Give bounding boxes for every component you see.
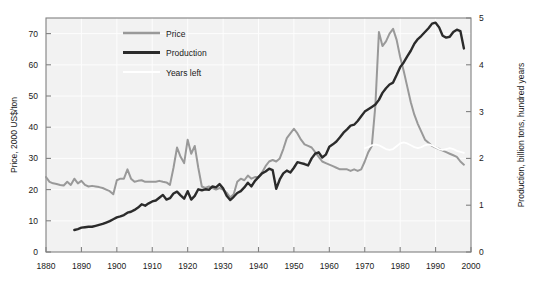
x-tick-label: 1980: [391, 261, 410, 271]
legend-label-price: Price: [166, 29, 186, 39]
x-tick-label: 2000: [462, 261, 481, 271]
x-tick-label: 1890: [72, 261, 91, 271]
x-tick-label: 1970: [355, 261, 374, 271]
y-tick-label-right: 1: [479, 200, 484, 210]
x-tick-label: 1930: [214, 261, 233, 271]
y-axis-left-title: Price, 2000 US$/ton: [9, 97, 19, 173]
y-tick-label-left: 50: [29, 91, 39, 101]
y-axis-right-title: Production, billion tons, hundred years: [516, 63, 526, 208]
y-tick-label-left: 60: [29, 60, 39, 70]
y-tick-label-right: 4: [479, 60, 484, 70]
x-tick-label: 1910: [143, 261, 162, 271]
x-tick-label: 1950: [284, 261, 303, 271]
x-tick-label: 1880: [37, 261, 56, 271]
x-tick-label: 1920: [178, 261, 197, 271]
y-tick-label-left: 70: [29, 29, 39, 39]
y-tick-label-left: 40: [29, 122, 39, 132]
y-tick-label-left: 0: [33, 247, 38, 257]
y-tick-label-right: 0: [479, 247, 484, 257]
x-tick-label: 1900: [107, 261, 126, 271]
legend-label-years-left: Years left: [166, 68, 202, 78]
y-tick-label-left: 10: [29, 216, 39, 226]
x-tick-label: 1960: [320, 261, 339, 271]
y-tick-label-right: 3: [479, 107, 484, 117]
chart-figure: 1880189019001910192019301940195019601970…: [0, 0, 537, 283]
y-tick-label-right: 2: [479, 153, 484, 163]
x-tick-label: 1940: [249, 261, 268, 271]
y-tick-label-left: 20: [29, 185, 39, 195]
x-tick-label: 1990: [426, 261, 445, 271]
y-tick-label-left: 30: [29, 153, 39, 163]
legend-label-production: Production: [166, 48, 207, 58]
y-tick-label-right: 5: [479, 13, 484, 23]
coal-price-production-chart: 1880189019001910192019301940195019601970…: [0, 0, 537, 283]
